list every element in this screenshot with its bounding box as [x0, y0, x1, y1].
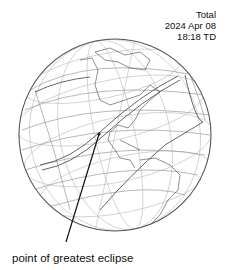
eclipse-contours — [22, 68, 210, 210]
eclipse-type: Total — [165, 9, 216, 20]
eclipse-info: Total 2024 Apr 08 18:18 TD — [165, 9, 216, 42]
graticule — [10, 23, 219, 246]
eclipse-date: 2024 Apr 08 — [165, 20, 216, 31]
greatest-eclipse-label: point of greatest eclipse — [12, 252, 133, 264]
coastlines — [80, 48, 180, 232]
eclipse-time: 18:18 TD — [165, 31, 216, 42]
